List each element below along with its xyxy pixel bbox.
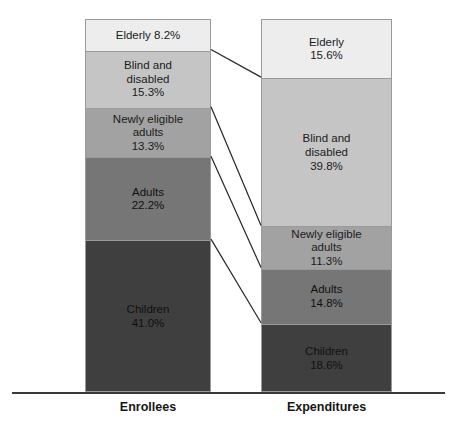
segment-value: 13.3% <box>132 140 165 154</box>
segment-expenditures-elderly: Elderly 15.6% <box>262 20 391 78</box>
segment-label: Children <box>305 345 348 359</box>
axis-baseline <box>12 392 445 394</box>
segment-enrollees-blind-and-disabled: Blind and disabled 15.3% <box>86 51 210 108</box>
segment-value: 11.3% <box>311 255 343 269</box>
segment-expenditures-children: Children 18.6% <box>262 324 391 392</box>
segment-label: Blind and disabled <box>124 59 172 86</box>
segment-label: Elderly 8.2% <box>116 29 181 43</box>
segment-label: Adults <box>311 283 343 297</box>
segment-value: 39.8% <box>310 160 343 174</box>
axis-label-expenditures: Expenditures <box>255 400 398 414</box>
segment-enrollees-elderly: Elderly 8.2% <box>86 20 210 51</box>
segment-expenditures-blind-and-disabled: Blind and disabled 39.8% <box>262 78 391 226</box>
segment-value: 41.0% <box>132 317 165 331</box>
segment-label: Newly eligible adults <box>291 228 361 255</box>
segment-enrollees-adults: Adults 22.2% <box>86 157 210 240</box>
segment-value: 15.6% <box>310 49 343 63</box>
segment-value: 15.3% <box>132 86 165 100</box>
segment-label: Adults <box>132 186 164 200</box>
axis-label-enrollees: Enrollees <box>85 400 211 414</box>
segment-enrollees-children: Children 41.0% <box>86 240 210 392</box>
segment-label: Elderly <box>309 36 344 50</box>
segment-expenditures-newly-eligible-adults: Newly eligible adults 11.3% <box>262 226 391 268</box>
segment-enrollees-newly-eligible-adults: Newly eligible adults 13.3% <box>86 108 210 158</box>
segment-label: Newly eligible adults <box>113 113 183 140</box>
segment-expenditures-adults: Adults 14.8% <box>262 269 391 324</box>
stacked-bar-chart: Elderly 8.2% Blind and disabled 15.3% Ne… <box>0 0 457 434</box>
segment-label: Blind and disabled <box>303 132 351 159</box>
segment-label: Children <box>127 303 170 317</box>
bar-enrollees: Elderly 8.2% Blind and disabled 15.3% Ne… <box>85 19 211 392</box>
segment-value: 18.6% <box>310 359 343 373</box>
bar-expenditures: Elderly 15.6% Blind and disabled 39.8% N… <box>261 19 392 392</box>
segment-value: 14.8% <box>310 297 343 311</box>
segment-value: 22.2% <box>132 199 165 213</box>
